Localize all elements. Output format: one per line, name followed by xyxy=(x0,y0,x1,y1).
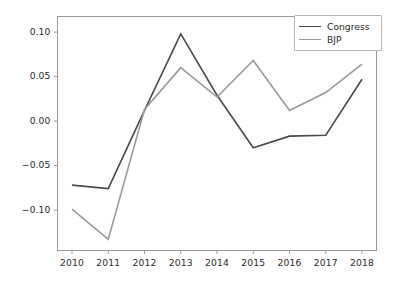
y-tick-label: 0.00 xyxy=(0,115,51,126)
figure-canvas: −0.10−0.050.000.050.10 20102011201220132… xyxy=(0,0,394,285)
legend-swatch-bjp xyxy=(299,39,321,40)
legend-swatch-congress xyxy=(299,26,321,27)
legend-item-congress: Congress xyxy=(299,20,376,33)
y-tick-label: −0.05 xyxy=(0,159,51,170)
y-tick-label: −0.10 xyxy=(0,204,51,215)
y-tick-label: 0.05 xyxy=(0,70,51,81)
legend-label-congress: Congress xyxy=(327,20,370,33)
legend-item-bjp: BJP xyxy=(299,33,376,46)
chart-legend: Congress BJP xyxy=(294,15,382,51)
x-tick-label: 2018 xyxy=(340,257,384,268)
y-tick-label: 0.10 xyxy=(0,26,51,37)
legend-label-bjp: BJP xyxy=(327,33,342,46)
